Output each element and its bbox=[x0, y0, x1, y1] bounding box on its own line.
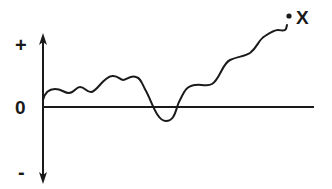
zero-label: 0 bbox=[15, 98, 26, 117]
vertical-axis bbox=[39, 33, 47, 184]
endpoint-dot bbox=[286, 13, 291, 18]
positive-label: + bbox=[15, 35, 27, 55]
endpoint-label: X bbox=[296, 8, 309, 27]
negative-label: - bbox=[18, 162, 25, 182]
diagram-canvas bbox=[0, 0, 332, 189]
